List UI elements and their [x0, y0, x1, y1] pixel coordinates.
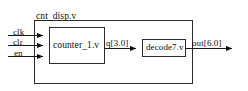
net-label-q: q[3.0] [106, 39, 128, 48]
decoder-module-label: decode7.v [146, 43, 184, 52]
counter-module-label: counter_1.v [53, 41, 99, 51]
block-diagram: cnt_disp.v clk clr en counter_1.v q[3.0]… [0, 0, 248, 91]
top-module-label: cnt_disp.v [36, 12, 76, 22]
input-label-clk: clk [13, 28, 24, 37]
input-label-clr: clr [13, 38, 23, 47]
input-label-en: en [14, 49, 23, 58]
output-label-out: out[6.0] [192, 39, 222, 48]
